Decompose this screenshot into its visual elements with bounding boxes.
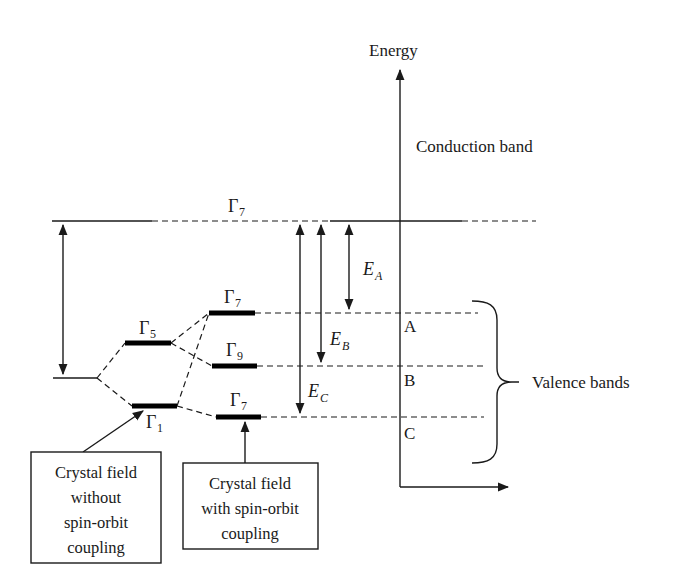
gamma5-label: Γ 5 [139,318,156,341]
svg-text:A: A [374,269,383,283]
svg-text:Γ: Γ [146,412,156,432]
eb-label: E B [329,329,350,353]
svg-text:9: 9 [237,349,243,363]
svg-text:coupling: coupling [221,524,279,543]
svg-text:Γ: Γ [224,287,234,307]
svg-text:1: 1 [157,421,163,435]
energy-axis-label: Energy [369,41,418,60]
conduction-band-label: Conduction band [416,137,533,156]
energy-axis [400,70,508,487]
svg-text:E: E [329,329,341,349]
svg-text:Γ: Γ [226,340,236,360]
ec-label: E C [307,381,329,405]
splitting-lines [97,313,216,417]
band-label-a: A [404,317,417,336]
gamma7-lower-label: Γ 7 [230,390,247,413]
valence-lines [255,313,484,417]
svg-text:7: 7 [239,205,245,219]
svg-text:E: E [307,381,319,401]
band-label-b: B [404,371,415,390]
svg-text:Γ: Γ [228,196,238,216]
svg-text:7: 7 [235,296,241,310]
svg-text:with spin-orbit: with spin-orbit [201,499,299,518]
svg-text:B: B [342,339,350,353]
valence-brace [472,301,519,463]
svg-text:E: E [362,259,374,279]
valence-bands-label: Valence bands [532,373,630,392]
gamma7-upper-label: Γ 7 [224,287,241,310]
band-structure-diagram: Energy Conduction band Γ 7 Γ 5 Γ 1 Γ 7 [0,0,687,583]
svg-text:spin-orbit: spin-orbit [64,513,129,532]
gamma9-label: Γ 9 [226,340,243,363]
svg-text:without: without [71,488,122,507]
band-label-c: C [404,424,415,443]
conduction-gamma7-label: Γ 7 [228,196,245,219]
pointer-arrow-without-so [83,411,143,452]
svg-text:Γ: Γ [230,390,240,410]
svg-text:5: 5 [150,327,156,341]
svg-text:Crystal field: Crystal field [209,474,292,493]
svg-text:C: C [320,391,329,405]
box-without-spin-orbit: Crystal field without spin-orbit couplin… [31,452,161,563]
svg-text:Crystal field: Crystal field [55,463,138,482]
box-with-spin-orbit: Crystal field with spin-orbit coupling [183,463,318,549]
svg-text:Γ: Γ [139,318,149,338]
gamma1-label: Γ 1 [146,412,163,435]
ea-label: E A [362,259,383,283]
svg-text:7: 7 [241,399,247,413]
svg-text:coupling: coupling [67,538,125,557]
